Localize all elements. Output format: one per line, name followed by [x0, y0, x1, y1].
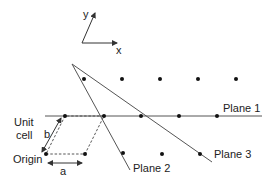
plane-3-line	[72, 64, 212, 162]
unit-cell-label-line2: cell	[16, 129, 33, 141]
lattice-planes-diagram: x y Unit cell b Origin a Plane 1 Plane 2…	[0, 0, 271, 183]
a-label: a	[60, 165, 67, 177]
origin-label: Origin	[13, 153, 42, 165]
x-axis-label: x	[116, 44, 122, 56]
plane-2-label: Plane 2	[133, 162, 170, 174]
y-axis-label: y	[83, 8, 89, 20]
unit-cell-label-line1: Unit	[14, 116, 34, 128]
b-label: b	[44, 128, 50, 140]
axes-indicator: x y	[82, 8, 122, 56]
unit-cell-outline	[46, 116, 104, 154]
plane-3-label: Plane 3	[214, 148, 251, 160]
plane-1-label: Plane 1	[223, 102, 260, 114]
